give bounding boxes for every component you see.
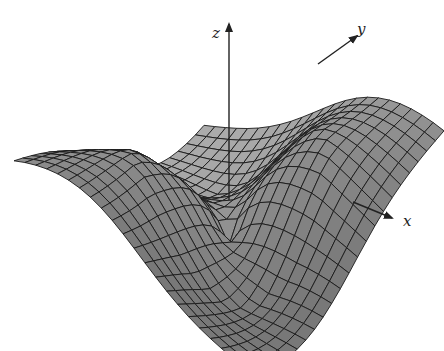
surface-plot: z y x	[0, 0, 444, 351]
z-axis-label: z	[211, 24, 220, 42]
x-axis-label: x	[403, 212, 412, 230]
y-axis: y	[318, 20, 366, 64]
y-axis-label: y	[356, 20, 366, 38]
